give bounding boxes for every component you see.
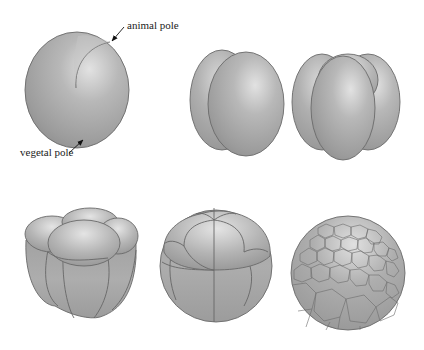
stage-blastula [291, 216, 405, 330]
animal-blastomere-4 [48, 220, 120, 266]
blastomere-4 [311, 56, 375, 160]
stage-eight-cell [25, 208, 138, 318]
animal-pole-arrow [112, 27, 124, 41]
animal-cap [164, 211, 270, 270]
blastomere-right [208, 52, 284, 156]
animal-pole-label: animal pole [127, 19, 179, 31]
stage-sixteen-cell [160, 208, 272, 322]
vegetal-pole-label: vegetal pole [20, 146, 74, 158]
stage-two-cell [190, 50, 284, 156]
stage-zygote: animal pole vegetal pole [20, 19, 179, 158]
cleavage-diagram: animal pole vegetal pole [0, 0, 424, 350]
stage-four-cell [292, 54, 400, 160]
blastula-sphere [291, 216, 405, 330]
